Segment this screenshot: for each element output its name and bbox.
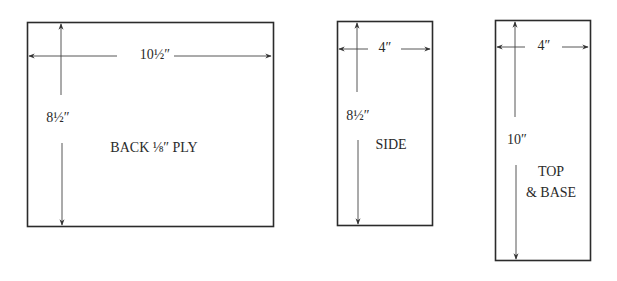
side-panel-name: SIDE xyxy=(368,137,414,153)
side-width-label: 4″ xyxy=(370,40,400,56)
top-base-panel-name-line1: TOP xyxy=(526,164,576,180)
top-base-height-label: 10″ xyxy=(500,132,534,148)
top-base-panel-name-line2: & BASE xyxy=(516,185,586,201)
back-width-label: 10½″ xyxy=(125,47,185,63)
top-base-width-label: 4″ xyxy=(529,38,559,54)
side-height-label: 8½″ xyxy=(340,108,376,124)
back-height-label: 8½″ xyxy=(38,110,78,126)
back-panel-name: BACK ⅛″ PLY xyxy=(104,140,204,156)
